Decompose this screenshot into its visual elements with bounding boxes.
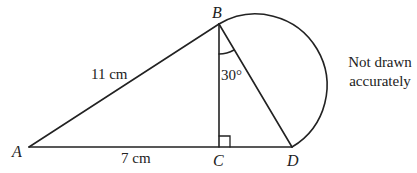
label-point-B: B [212,4,222,21]
label-angle-30: 30° [221,67,242,83]
label-point-D: D [286,152,299,169]
angle-arc-30 [219,50,234,54]
segment-BD [219,24,292,147]
label-point-A: A [11,143,22,160]
note-line-1: Not drawn [344,53,416,72]
label-length-AC: 7 cm [121,150,151,166]
not-drawn-accurately-note: Not drawn accurately [344,53,416,91]
right-angle-marker [219,136,230,147]
label-length-AB: 11 cm [91,66,128,82]
label-point-C: C [213,152,224,169]
note-line-2: accurately [344,72,416,91]
segment-AB [29,24,219,147]
